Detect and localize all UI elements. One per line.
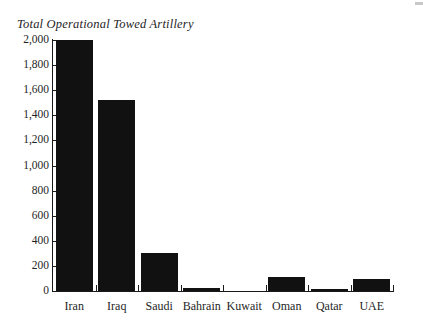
y-axis-tick-label: 1,200 (23, 134, 49, 146)
y-axis-tick (53, 291, 58, 292)
x-axis-tick (308, 285, 309, 292)
y-axis-tick-label: 1,000 (23, 160, 49, 172)
bar (183, 288, 220, 291)
bar (353, 279, 390, 291)
x-axis-tick-label: Oman (266, 299, 309, 313)
y-axis-tick-label: 200 (32, 260, 49, 272)
plot-area (53, 40, 393, 291)
bar (56, 40, 93, 291)
x-axis-tick (181, 285, 182, 292)
y-axis-tick-label: 0 (43, 285, 49, 297)
x-axis-tick-label: Bahrain (181, 299, 224, 313)
x-axis-tick (138, 285, 139, 292)
y-axis-tick-label: 400 (32, 235, 49, 247)
x-axis-tick-label: Iraq (96, 299, 139, 313)
chart-page: Total Operational Towed Artillery 020040… (0, 0, 423, 329)
x-axis-tick-label: Saudi (138, 299, 181, 313)
x-axis-tick (266, 285, 267, 292)
y-axis-tick-label: 1,400 (23, 109, 49, 121)
chart-title: Total Operational Towed Artillery (17, 17, 194, 32)
page-edge-artifact (415, 2, 423, 5)
x-axis-tick (223, 285, 224, 292)
y-axis-tick-label: 1,600 (23, 84, 49, 96)
bar (268, 277, 305, 291)
y-axis-tick-label: 1,800 (23, 59, 49, 71)
x-axis-tick-label: Kuwait (223, 299, 266, 313)
bar (98, 100, 135, 291)
x-axis-tick (351, 285, 352, 292)
bar (141, 253, 178, 291)
x-axis-tick (393, 285, 394, 292)
x-axis-tick (96, 285, 97, 292)
y-axis-tick-label: 600 (32, 210, 49, 222)
x-axis-tick-label: UAE (351, 299, 394, 313)
y-axis-tick-label: 800 (32, 185, 49, 197)
y-axis-tick-label: 2,000 (23, 34, 49, 46)
bar (311, 289, 348, 291)
x-axis-tick-label: Iran (53, 299, 96, 313)
x-axis-tick-label: Qatar (308, 299, 351, 313)
